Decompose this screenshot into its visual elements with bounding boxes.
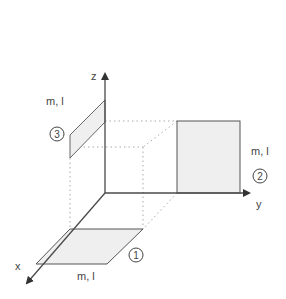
plate-3 bbox=[70, 100, 105, 158]
plate-2-number: 2 bbox=[257, 171, 263, 182]
plate-3-label: m, l bbox=[46, 95, 64, 107]
plate-1 bbox=[36, 229, 143, 264]
y-axis-label: y bbox=[256, 198, 262, 210]
plate-3-number: 3 bbox=[54, 129, 60, 140]
x-axis-label: x bbox=[15, 260, 21, 272]
z-axis-label: z bbox=[91, 70, 97, 82]
plate-2 bbox=[177, 121, 240, 193]
plate-1-label: m, l bbox=[77, 270, 95, 282]
plate-2-label: m, l bbox=[251, 145, 269, 157]
plate-1-number: 1 bbox=[133, 250, 139, 261]
3d-axes-diagram: z y x m, l 3 m, l 2 m, l 1 bbox=[0, 0, 286, 299]
